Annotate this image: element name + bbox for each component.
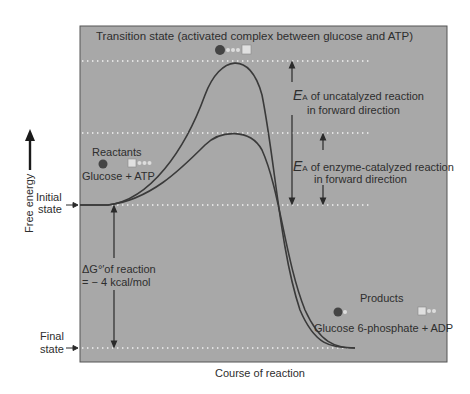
- plot-panel: [80, 26, 447, 362]
- ea-uncatalyzed-line1: of uncatalyzed reaction: [308, 90, 424, 102]
- ea-symbol: E: [293, 87, 302, 103]
- delta-g-line2: = − 4 kcal/mol: [82, 276, 150, 288]
- free-energy-arrow: [25, 129, 35, 170]
- reactants-title: Reactants: [92, 146, 142, 158]
- delta-g-line1: ΔG°′of reaction: [82, 263, 156, 275]
- products-title: Products: [360, 292, 403, 304]
- x-axis-label: Course of reaction: [215, 367, 305, 379]
- transition-state-label: Transition state (activated complex betw…: [96, 30, 413, 42]
- final-state-line1: Final: [40, 330, 64, 342]
- initial-state-line2: state: [38, 203, 62, 215]
- ea-catalyzed-line2: in forward direction: [314, 173, 407, 185]
- state-pointers: [66, 203, 78, 351]
- final-state-line2: state: [40, 343, 64, 355]
- ea-catalyzed-line1: of enzyme-catalyzed reaction: [308, 161, 454, 173]
- glucose-molecule-icon: [99, 160, 108, 169]
- products-formula: Glucose 6-phosphate + ADP: [314, 322, 453, 334]
- initial-state-line1: Initial: [36, 191, 62, 203]
- ea-uncatalyzed-label: EA of uncatalyzed reaction: [293, 89, 424, 104]
- reactants-formula: Glucose + ATP: [82, 170, 155, 182]
- ea-uncatalyzed-line2: in forward direction: [307, 104, 400, 116]
- ea-symbol: E: [293, 158, 302, 174]
- energy-diagram: [0, 0, 470, 394]
- y-axis-label: Free energy: [23, 174, 35, 233]
